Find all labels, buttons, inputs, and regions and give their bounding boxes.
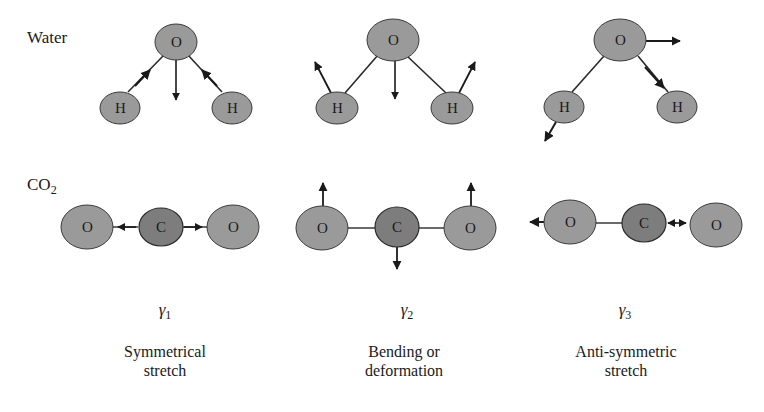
arrow-icon xyxy=(459,62,475,93)
mode-symbol-1: γ1 xyxy=(135,300,195,323)
atom-hydrogen: H xyxy=(227,99,238,117)
atom-oxygen: O xyxy=(388,31,399,49)
arrow-icon xyxy=(135,70,150,86)
atom-hydrogen: H xyxy=(672,98,683,116)
atom-oxygen: O xyxy=(82,218,93,236)
row-label-co2: CO2 xyxy=(27,176,57,199)
mode-symbol-3: γ3 xyxy=(595,300,655,323)
row-label-water: Water xyxy=(27,29,67,47)
arrow-icon xyxy=(545,122,556,141)
atom-hydrogen: H xyxy=(559,98,570,116)
atom-hydrogen: H xyxy=(115,99,126,117)
atom-carbon: C xyxy=(156,218,166,236)
atom-oxygen: O xyxy=(711,216,722,234)
vibrational-modes-diagram: O H H O H H O H H O C O O C O O C O Wate… xyxy=(0,0,764,412)
arrow-icon xyxy=(645,67,664,88)
atom-oxygen: O xyxy=(615,31,626,49)
atom-hydrogen: H xyxy=(447,99,458,117)
atom-carbon: C xyxy=(639,214,649,232)
mode-caption-1: Symmetrical stretch xyxy=(85,342,245,380)
mode-symbol-2: γ2 xyxy=(377,300,437,323)
atom-oxygen: O xyxy=(228,218,239,236)
mode-caption-2: Bending or deformation xyxy=(324,342,484,380)
atom-carbon: C xyxy=(392,218,402,236)
arrow-icon xyxy=(202,70,217,86)
atom-oxygen: O xyxy=(171,33,182,51)
atom-oxygen: O xyxy=(565,213,576,231)
arrow-icon xyxy=(315,62,331,93)
mode-caption-3: Anti-symmetric stretch xyxy=(546,342,706,380)
atom-oxygen: O xyxy=(465,219,476,237)
atom-hydrogen: H xyxy=(332,99,343,117)
atom-oxygen: O xyxy=(317,219,328,237)
